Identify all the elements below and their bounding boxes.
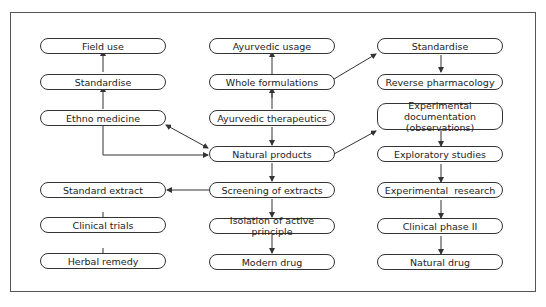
- node-standard-extract: Standard extract: [40, 182, 166, 198]
- node-ethno-medicine: Ethno medicine: [40, 110, 166, 126]
- node-ayurvedic-usage: Ayurvedic usage: [209, 38, 335, 54]
- node-isolation-of-active-principle: Isolation of active principle: [209, 218, 335, 234]
- node-natural-products: Natural products: [209, 146, 335, 162]
- node-clinical-trials: Clinical trials: [40, 217, 166, 233]
- node-whole-formulations: Whole formulations: [209, 74, 335, 90]
- node-reverse-pharmacology: Reverse pharmacology: [377, 74, 503, 90]
- node-herbal-remedy: Herbal remedy: [40, 253, 166, 269]
- node-standardise-right: Standardise: [377, 38, 503, 54]
- node-ayurvedic-therapeutics: Ayurvedic therapeutics: [209, 110, 335, 126]
- node-clinical-phase-ii: Clinical phase II: [377, 218, 503, 234]
- node-experimental-research: Experimental research: [377, 182, 503, 198]
- node-field-use: Field use: [40, 38, 166, 54]
- node-modern-drug: Modern drug: [209, 254, 335, 270]
- node-experimental-documentation: Experimental documentation (observations…: [377, 103, 503, 130]
- node-standardise-left: Standardise: [40, 74, 166, 90]
- node-exploratory-studies: Exploratory studies: [377, 146, 503, 162]
- node-screening-of-extracts: Screening of extracts: [209, 182, 335, 198]
- node-natural-drug: Natural drug: [377, 254, 503, 270]
